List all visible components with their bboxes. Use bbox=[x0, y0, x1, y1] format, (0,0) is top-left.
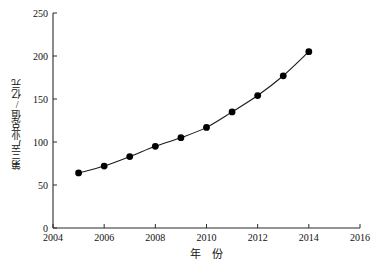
x-tick-label: 2014 bbox=[299, 232, 319, 243]
y-tick-label: 50 bbox=[14, 180, 48, 191]
plot-area bbox=[0, 0, 380, 266]
x-tick-label: 2012 bbox=[248, 232, 268, 243]
y-tick-label: 100 bbox=[14, 137, 48, 148]
x-tick-label: 2016 bbox=[350, 232, 370, 243]
data-point bbox=[280, 72, 287, 79]
series-markers-third-industry bbox=[75, 48, 312, 176]
y-axis-ticks bbox=[53, 13, 57, 228]
x-axis-ticks bbox=[53, 224, 360, 228]
data-point bbox=[126, 153, 133, 160]
series-line-third-industry bbox=[79, 52, 309, 173]
axes-group bbox=[53, 13, 360, 228]
data-point bbox=[178, 134, 185, 141]
x-tick-label: 2008 bbox=[145, 232, 165, 243]
data-point bbox=[305, 48, 312, 55]
x-tick-label: 2004 bbox=[43, 232, 63, 243]
y-tick-label: 200 bbox=[14, 51, 48, 62]
y-tick-label: 250 bbox=[14, 8, 48, 19]
x-tick-label: 2006 bbox=[94, 232, 114, 243]
data-point bbox=[229, 109, 236, 116]
data-point bbox=[254, 92, 261, 99]
data-point bbox=[203, 124, 210, 131]
data-point bbox=[75, 170, 82, 177]
x-tick-label: 2010 bbox=[197, 232, 217, 243]
third-industry-output-line-chart: 第三产业总值/亿元 年 份 050100150200250 2004200620… bbox=[0, 0, 380, 266]
y-tick-label: 150 bbox=[14, 94, 48, 105]
data-point bbox=[101, 163, 108, 170]
data-point bbox=[152, 143, 159, 150]
